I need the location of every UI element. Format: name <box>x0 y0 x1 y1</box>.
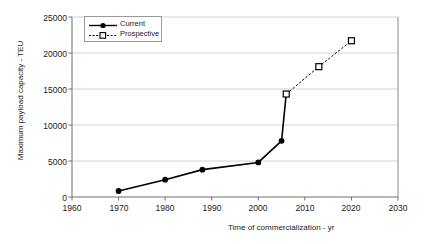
legend-label-prospective: Prospective <box>120 29 159 38</box>
legend-item-prospective: Prospective <box>88 30 160 41</box>
chart-legend: Current Prospective <box>84 16 162 42</box>
legend-swatch-prospective-icon <box>88 30 118 41</box>
chart-container: Maximum payload capacity - TEU Time of c… <box>0 0 425 244</box>
legend-label-current: Current <box>120 19 145 28</box>
plot-area <box>0 0 425 244</box>
